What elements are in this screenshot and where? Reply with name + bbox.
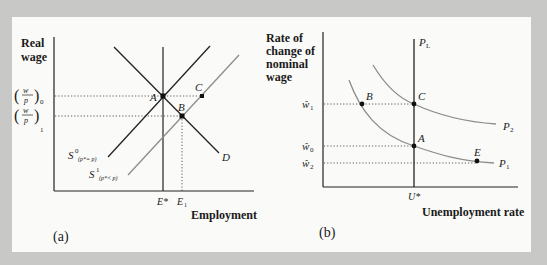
panel-a-caption: (a): [53, 229, 69, 245]
panel-a-x-tick-e-star: E*: [156, 196, 168, 207]
svg-text:(p*= p): (p*= p): [78, 156, 97, 163]
panel-b-point-e: [475, 159, 480, 164]
panel-a-point-b: [180, 114, 185, 119]
svg-text:P: P: [498, 157, 506, 169]
svg-text:1: 1: [184, 202, 187, 208]
panel-a-label-c: C: [195, 81, 203, 93]
panel-a-x-axis-label: Employment: [191, 208, 257, 222]
panel-b-y-tick-w2: ŵ 2: [302, 157, 314, 171]
panel-a-y-tick-w-p-0: ( w p ) 0: [14, 86, 44, 106]
panel-b-y-tick-w1: ŵ 1: [302, 98, 314, 112]
panel-a-curve-s0: [108, 46, 210, 157]
svg-text:(: (: [14, 107, 19, 125]
panel-a: Real wage Employment (a) ( w p ) 0 ( w p…: [14, 36, 257, 245]
svg-text:E: E: [176, 196, 183, 207]
panel-a-label-s1: S 1 (p*< p): [89, 166, 118, 182]
panel-b-x-tick-u-star: U*: [408, 191, 420, 202]
panel-b-label-a: A: [417, 132, 425, 144]
svg-text:p: p: [23, 96, 28, 105]
panel-b-point-a: [412, 144, 417, 149]
svg-text:P: P: [418, 36, 426, 48]
panel-b-curve-p2: [373, 65, 496, 124]
panel-a-y-tick-w-p-1: ( w p ) 1: [14, 106, 44, 134]
panel-a-point-c: [200, 94, 204, 98]
svg-text:S: S: [89, 168, 95, 180]
svg-text:L: L: [426, 42, 430, 50]
panel-a-label-s0: S 0 (p*= p): [68, 147, 97, 163]
panel-a-label-a: A: [149, 91, 157, 103]
panel-b-label-e: E: [473, 146, 481, 158]
svg-text:2: 2: [310, 163, 314, 171]
svg-text:(: (: [14, 87, 19, 105]
panel-b-label-b: B: [366, 90, 373, 102]
panel-a-label-b: B: [178, 101, 185, 113]
panel-a-y-axis-label: Real wage: [21, 36, 48, 64]
panel-b-label-pl: P L: [418, 36, 430, 50]
svg-text:1: 1: [506, 163, 510, 171]
panel-b: Rate of change of nominal wage Unemploym…: [266, 31, 525, 241]
panel-b-label-c: C: [418, 90, 426, 102]
panel-a-point-a: [161, 94, 166, 99]
svg-text:ŵ: ŵ: [302, 157, 310, 169]
svg-text:w: w: [23, 106, 29, 115]
panel-b-point-c: [412, 102, 417, 107]
svg-text:w: w: [23, 86, 29, 95]
svg-text:2: 2: [510, 126, 514, 134]
svg-text:p: p: [23, 116, 28, 125]
svg-text:(p*< p): (p*< p): [99, 175, 118, 182]
svg-text:1: 1: [40, 126, 44, 134]
panel-b-x-axis-label: Unemployment rate: [422, 205, 525, 219]
svg-text:1: 1: [96, 166, 100, 174]
svg-text:S: S: [68, 149, 74, 161]
panel-b-y-tick-w0: ŵ 0: [302, 140, 314, 154]
panel-a-curve-d: [114, 47, 219, 153]
diagram-canvas: Real wage Employment (a) ( w p ) 0 ( w p…: [0, 0, 547, 265]
panel-b-label-p2: P 2: [502, 120, 514, 134]
panel-a-x-tick-e1: E 1: [176, 196, 187, 208]
svg-text:0: 0: [310, 146, 314, 154]
svg-text:ŵ: ŵ: [302, 140, 310, 152]
svg-text:): ): [34, 107, 39, 125]
panel-b-y-axis-label: Rate of change of nominal wage: [266, 31, 318, 84]
svg-text:): ): [34, 87, 39, 105]
panel-b-label-p1: P 1: [498, 157, 510, 171]
svg-text:ŵ: ŵ: [302, 98, 310, 110]
panel-b-point-b: [360, 102, 365, 107]
svg-text:1: 1: [310, 104, 314, 112]
panel-b-caption: (b): [319, 225, 336, 241]
svg-text:0: 0: [75, 147, 79, 155]
svg-text:0: 0: [40, 98, 44, 106]
svg-text:P: P: [502, 120, 510, 132]
panel-a-label-d: D: [221, 151, 230, 163]
